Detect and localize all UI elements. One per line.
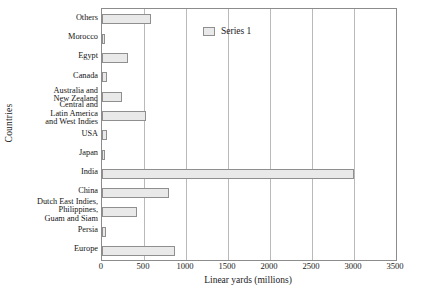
bar — [102, 34, 105, 44]
bar — [102, 188, 169, 198]
x-axis-title: Linear yards (millions) — [101, 275, 395, 285]
category-label: USA — [14, 129, 98, 137]
category-axis-labels: EuropePersiaDutch East Indies, Philippin… — [14, 8, 98, 259]
bar-slot — [102, 146, 396, 164]
bar-slot — [102, 223, 396, 241]
x-tick-label: 1500 — [218, 261, 235, 271]
x-tick-label: 500 — [137, 261, 150, 271]
bar — [102, 227, 106, 237]
bar — [102, 111, 146, 121]
category-label: Central and Latin America and West Indie… — [14, 102, 98, 127]
bar-slot — [102, 242, 396, 260]
bar — [102, 246, 175, 256]
bar — [102, 169, 354, 179]
bar-slot — [102, 49, 396, 67]
category-label: India — [14, 168, 98, 176]
bar — [102, 92, 122, 102]
bar — [102, 130, 107, 140]
category-label: Morocco — [14, 33, 98, 41]
category-label: Persia — [14, 226, 98, 234]
x-tick-label: 3500 — [386, 261, 403, 271]
bar-slot — [102, 68, 396, 86]
bar-slot — [102, 107, 396, 125]
category-label: China — [14, 187, 98, 195]
bar-slot — [102, 184, 396, 202]
legend: Series 1 — [203, 26, 251, 36]
category-label: Dutch East Indies, Philippines, Guam and… — [14, 198, 98, 223]
category-label: Egypt — [14, 52, 98, 60]
category-label: Others — [14, 13, 98, 21]
bar-slot — [102, 165, 396, 183]
category-label: Japan — [14, 149, 98, 157]
x-axis-tick-labels: 0500100015002000250030003500 — [101, 261, 395, 275]
x-tick-label: 0 — [99, 261, 103, 271]
legend-swatch-icon — [203, 27, 215, 36]
bar — [102, 150, 105, 160]
x-tick-label: 2000 — [260, 261, 277, 271]
bar — [102, 207, 137, 217]
bar-slot — [102, 203, 396, 221]
bar-slot — [102, 126, 396, 144]
category-label: Australia and New Zealand — [14, 86, 98, 103]
bar — [102, 72, 107, 82]
bar-chart: Countries EuropePersiaDutch East Indies,… — [0, 0, 422, 297]
y-axis-title: Countries — [4, 88, 14, 158]
category-label: Europe — [14, 245, 98, 253]
legend-label: Series 1 — [221, 26, 251, 36]
bar-slot — [102, 88, 396, 106]
x-tick-label: 2500 — [302, 261, 319, 271]
bar — [102, 53, 128, 63]
bar — [102, 14, 151, 24]
plot-area — [101, 8, 397, 261]
category-label: Canada — [14, 71, 98, 79]
x-tick-label: 3000 — [344, 261, 361, 271]
x-tick-label: 1000 — [176, 261, 193, 271]
